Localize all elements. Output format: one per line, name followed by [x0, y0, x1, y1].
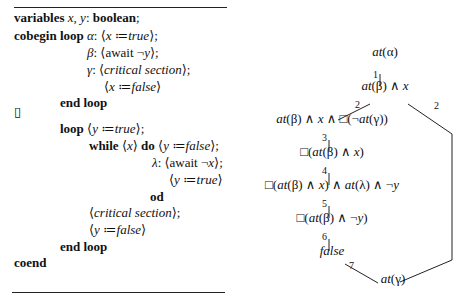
edge-2-right — [400, 104, 452, 282]
edge-label-l2b: 2 — [434, 100, 439, 111]
edge-label-l2a: 2 — [355, 99, 360, 110]
edge-label-l4: 4 — [322, 165, 327, 176]
diagram-node-n_box_beta_noty: □(at(β) ∧ ¬y) — [296, 210, 367, 225]
diagram-node-n_beta_x: at(β) ∧ x — [361, 78, 408, 93]
edge-label-l1: 1 — [373, 69, 378, 80]
edge-label-l5: 5 — [322, 198, 327, 209]
edge-label-l7: 7 — [349, 260, 354, 271]
diagram-node-n_alpha: at(α) — [372, 44, 398, 59]
diagram-node-n_false: false — [320, 243, 345, 258]
edge-label-l6: 6 — [322, 231, 327, 242]
diagram-node-n_gamma: at(γ) — [381, 271, 406, 286]
edge-label-l3: 3 — [322, 132, 327, 143]
diagram-node-n_box_beta_x: □(at(β) ∧ x) — [300, 144, 364, 159]
diagram-node-n_beta_x_box: at(β) ∧ x ∧ □(¬at(γ)) — [276, 111, 388, 126]
diagram-node-n_box_lambda: □(at(β) ∧ x) ∧ at(λ) ∧ ¬y — [265, 177, 399, 192]
